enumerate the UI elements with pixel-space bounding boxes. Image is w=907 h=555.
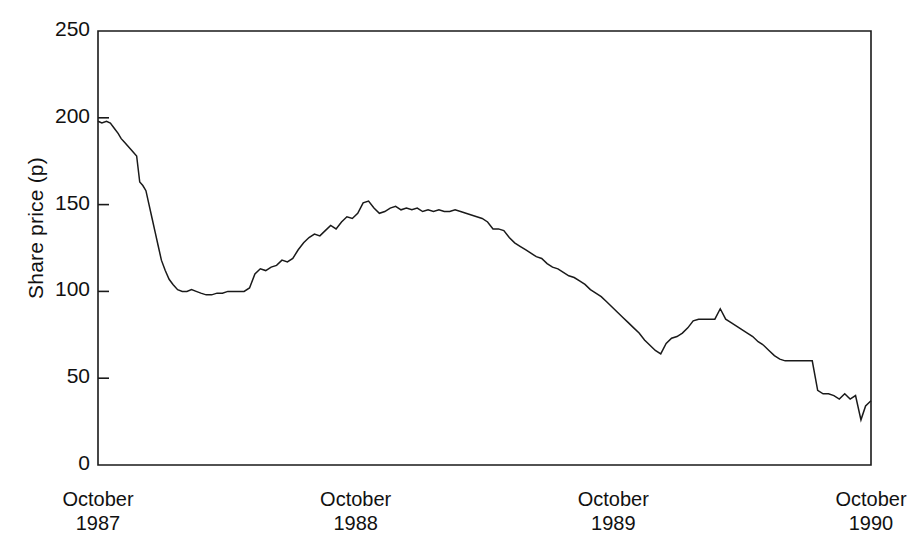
data-series-group [98,121,871,420]
x-tick-year: 1988 [320,511,391,535]
x-axis-tick-label: October1989 [578,487,649,536]
x-axis-tick-label: October1987 [62,487,133,536]
x-tick-year: 1990 [835,511,906,535]
y-axis-ticks [98,118,109,378]
x-tick-year: 1987 [62,511,133,535]
x-tick-year: 1989 [578,511,649,535]
plot-border [98,31,871,465]
x-tick-month: October [578,488,649,510]
x-tick-month: October [835,488,906,510]
x-axis-tick-label: October1988 [320,487,391,536]
x-tick-month: October [320,488,391,510]
series-line-share-price [98,121,871,420]
x-axis-tick-label: October1990 [835,487,906,536]
x-tick-month: October [62,488,133,510]
axis-frame [98,31,871,465]
